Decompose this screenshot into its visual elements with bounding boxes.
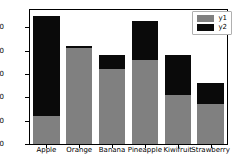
legend-label-y1: y1 <box>218 15 227 22</box>
y-tick-label: 40 <box>0 47 4 54</box>
chart-legend: y1y2 <box>192 11 232 35</box>
bar-segment-y2 <box>165 55 191 95</box>
bar-segment-y2 <box>33 16 59 116</box>
bar-group <box>33 10 59 144</box>
bar-segment-y1 <box>197 104 223 144</box>
y-tick-label: 0 <box>0 141 4 148</box>
x-tick-label-apple: Apple <box>36 147 56 154</box>
bar-group <box>165 10 191 144</box>
x-tick-label-pineapple: Pineapple <box>128 147 162 154</box>
bar-group <box>132 10 158 144</box>
legend-item-y1[interactable]: y1 <box>197 15 227 22</box>
bar-group <box>99 10 125 144</box>
legend-item-y2[interactable]: y2 <box>197 24 227 31</box>
y-tick-label: 10 <box>0 117 4 124</box>
bar-segment-y2 <box>132 21 158 61</box>
y-tick-label: 30 <box>0 71 4 78</box>
y-tick-mark <box>25 121 29 122</box>
bar-group <box>66 10 92 144</box>
legend-swatch-y2 <box>197 24 214 31</box>
x-tick-label-orange: Orange <box>66 147 92 154</box>
y-tick-mark <box>25 27 29 28</box>
chart-figure: 01020304050 AppleOrangeBananaPineappleKi… <box>0 0 237 166</box>
y-tick-mark <box>25 74 29 75</box>
bar-segment-y1 <box>33 116 59 144</box>
bar-segment-y2 <box>197 83 223 104</box>
bar-segment-y2 <box>66 46 92 48</box>
bar-segment-y2 <box>99 55 125 69</box>
bar-segment-y1 <box>99 69 125 144</box>
x-tick-label-kiwifruit: Kiwifruit <box>163 147 192 154</box>
x-tick-label-strawberry: Strawberry <box>191 147 230 154</box>
bar-segment-y1 <box>165 95 191 144</box>
y-tick-mark <box>25 51 29 52</box>
legend-label-y2: y2 <box>218 24 227 31</box>
y-tick-mark <box>25 97 29 98</box>
y-tick-label: 50 <box>0 24 4 31</box>
y-tick-label: 20 <box>0 94 4 101</box>
bar-segment-y1 <box>132 60 158 144</box>
bar-segment-y1 <box>66 48 92 144</box>
x-tick-label-banana: Banana <box>99 147 126 154</box>
y-tick-mark <box>25 144 29 145</box>
legend-swatch-y1 <box>197 15 214 22</box>
